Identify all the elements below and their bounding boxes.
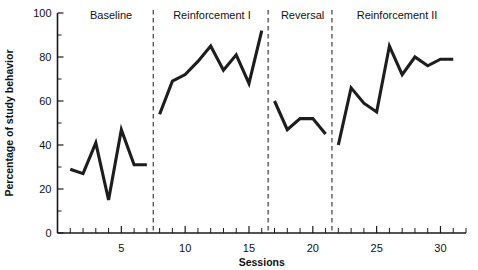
y-tick-label: 40 <box>39 139 51 151</box>
y-tick-label: 80 <box>39 51 51 63</box>
x-tick-label: 10 <box>179 242 191 254</box>
x-tick-label: 25 <box>371 242 383 254</box>
x-tick-label: 30 <box>434 242 446 254</box>
data-series-line <box>160 31 262 115</box>
y-tick-label: 20 <box>39 183 51 195</box>
phase-label: Reversal <box>281 9 324 21</box>
data-series-line <box>338 46 453 145</box>
x-tick-label: 15 <box>243 242 255 254</box>
phase-label: Baseline <box>90 9 132 21</box>
y-tick-label: 100 <box>33 7 51 19</box>
data-series-line <box>275 101 326 134</box>
study-behavior-line-chart: 02040608010051015202530SessionsPercentag… <box>0 0 478 270</box>
x-axis-label: Sessions <box>239 256 285 268</box>
y-tick-label: 0 <box>45 227 51 239</box>
y-axis-label: Percentage of study behavior <box>3 49 15 196</box>
y-tick-label: 60 <box>39 95 51 107</box>
x-tick-label: 20 <box>307 242 319 254</box>
chart-container: 02040608010051015202530SessionsPercentag… <box>0 0 478 270</box>
data-series-line <box>70 130 147 200</box>
phase-label: Reinforcement I <box>173 9 251 21</box>
phase-label: Reinforcement II <box>357 9 438 21</box>
x-tick-label: 5 <box>118 242 124 254</box>
